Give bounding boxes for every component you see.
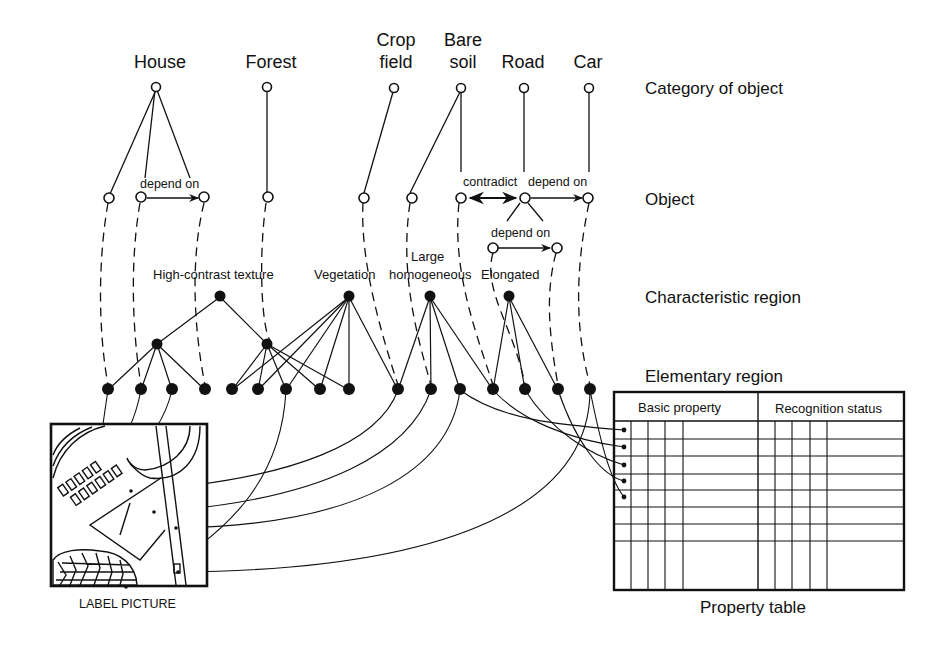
level-elementary-region: Elementary region bbox=[645, 367, 783, 387]
relation-house-depend-on: depend on bbox=[140, 177, 199, 191]
relation-road-car-depend-on: depend on bbox=[528, 175, 587, 189]
label-picture-caption: LABEL PICTURE bbox=[79, 597, 176, 611]
region-elongated: Elongated bbox=[481, 268, 540, 283]
category-house: House bbox=[134, 52, 186, 73]
category-car: Car bbox=[573, 52, 602, 73]
property-table-caption: Property table bbox=[700, 598, 806, 618]
object-nodes bbox=[104, 192, 593, 253]
region-vegetation: Vegetation bbox=[314, 268, 375, 283]
level-characteristic-region: Characteristic region bbox=[645, 288, 801, 308]
category-to-object-links bbox=[110, 90, 589, 221]
region-large-line2: homogeneous bbox=[389, 268, 471, 283]
category-nodes bbox=[152, 83, 594, 93]
category-forest: Forest bbox=[245, 52, 296, 73]
semantic-network-diagram bbox=[0, 0, 949, 646]
relation-road-sub-depend-on: depend on bbox=[491, 226, 550, 240]
category-crop-line1: Crop bbox=[376, 30, 415, 51]
category-baresoil-line1: Bare bbox=[444, 30, 482, 51]
category-baresoil-line2: soil bbox=[449, 52, 476, 73]
category-road: Road bbox=[501, 52, 544, 73]
table-header-recognition-status: Recognition status bbox=[775, 402, 882, 417]
characteristic-to-elementary-links bbox=[108, 297, 558, 390]
region-high-contrast-texture: High-contrast texture bbox=[153, 268, 274, 283]
table-header-basic-property: Basic property bbox=[638, 401, 721, 416]
elementary-nodes bbox=[102, 383, 596, 395]
category-crop-line2: field bbox=[379, 52, 412, 73]
property-table bbox=[614, 392, 904, 590]
level-object: Object bbox=[645, 190, 694, 210]
region-large-line1: Large bbox=[411, 250, 444, 265]
level-category-of-object: Category of object bbox=[645, 79, 783, 99]
relation-contradict: contradict bbox=[463, 175, 517, 189]
label-picture bbox=[51, 424, 207, 589]
